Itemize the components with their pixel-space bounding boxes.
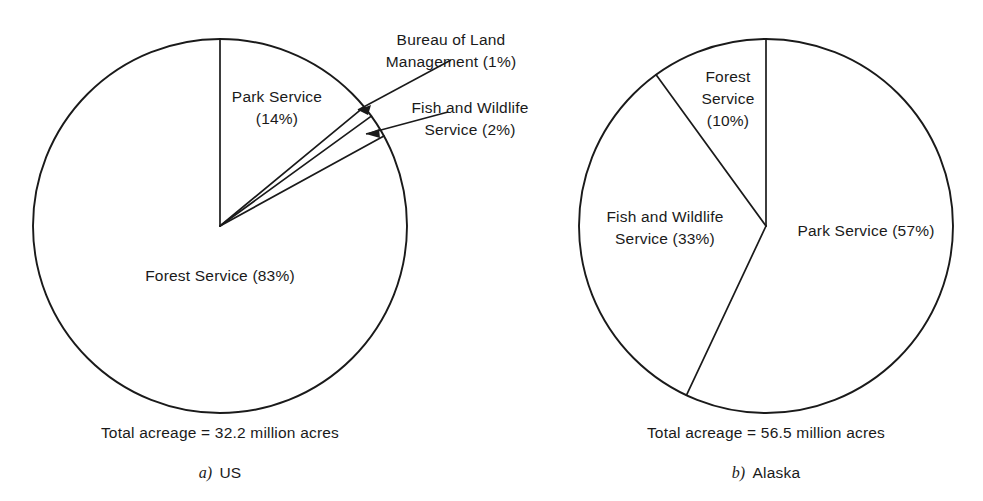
fws-arrow-head-icon (366, 129, 380, 138)
right-label-forest-service-line2: Service (701, 90, 754, 107)
right-label-fws-line2: Service (33%) (615, 230, 715, 247)
left-label-blm-line2: Management (1%) (386, 53, 517, 70)
right-panel-name: Alaska (753, 464, 801, 481)
pie-charts-figure: Park Service (14%) Bureau of Land Manage… (0, 0, 983, 501)
left-label-blm-line1: Bureau of Land (397, 31, 506, 48)
left-label-fws-line2: Service (2%) (424, 121, 515, 138)
left-panel-name: US (219, 464, 241, 481)
right-label-forest-service-line3: (10%) (707, 112, 749, 129)
figure-container: Park Service (14%) Bureau of Land Manage… (0, 0, 983, 501)
left-caption-panel: a) US (199, 464, 242, 482)
right-slice-edge-park-end (687, 226, 767, 395)
right-label-forest-service-line1: Forest (705, 68, 751, 85)
left-label-fws-line1: Fish and Wildlife (411, 99, 528, 116)
left-pie-chart: Park Service (14%) Bureau of Land Manage… (33, 31, 529, 482)
right-caption-panel: b) Alaska (732, 464, 801, 482)
right-caption-total-acreage: Total acreage = 56.5 million acres (647, 424, 885, 441)
left-panel-letter: a) (199, 464, 212, 482)
left-caption-total-acreage: Total acreage = 32.2 million acres (101, 424, 339, 441)
right-pie-chart: Forest Service (10%) Fish and Wildlife S… (579, 39, 953, 482)
right-label-park-service: Park Service (57%) (797, 222, 934, 239)
left-label-forest-service: Forest Service (83%) (145, 267, 295, 284)
left-label-park-service-line2: (14%) (256, 110, 298, 127)
left-slice-edge-blm-end (220, 116, 371, 226)
left-slice-edge-fws-end (220, 136, 384, 226)
right-panel-letter: b) (732, 464, 745, 482)
right-label-fws-line1: Fish and Wildlife (606, 208, 723, 225)
left-label-park-service-line1: Park Service (232, 88, 322, 105)
